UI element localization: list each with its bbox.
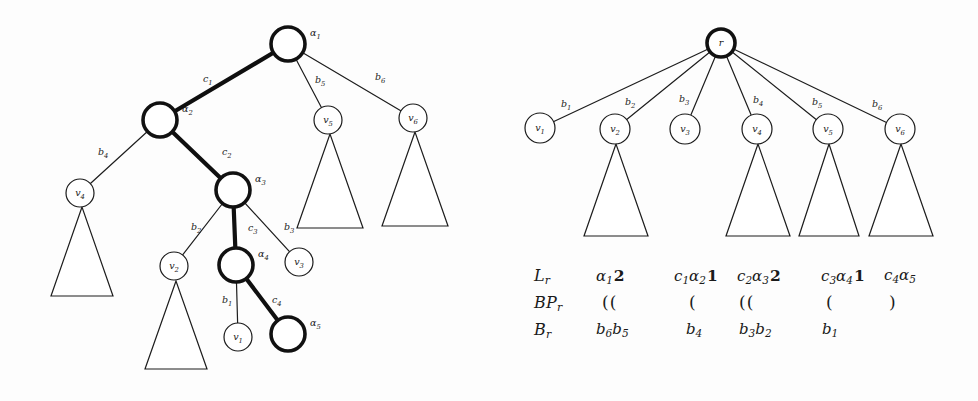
edge-line — [615, 43, 721, 129]
tree-node-a1: α1 — [271, 27, 321, 61]
left-tree: c1c2c3c4b4b2b3b1b5b6α1α2α3α4α5v4v2v1v3v5… — [51, 27, 448, 369]
subtree-triangle-v6 — [382, 132, 448, 226]
tree-edge-b6: b6 — [288, 44, 413, 118]
formula-cell: ( — [826, 292, 834, 312]
edge-label: b6 — [872, 98, 883, 112]
edge-label: c2 — [222, 146, 232, 160]
subtree-triangle-v2 — [584, 144, 648, 236]
tree-node-v3: v3 — [670, 114, 700, 144]
formula-cell: c2α32 — [737, 266, 781, 286]
node-circle — [143, 103, 177, 137]
formula-cell: ( — [689, 292, 697, 312]
tree-edge-b2: b2 — [615, 43, 721, 129]
formula-cell: c3α41 — [821, 266, 865, 286]
tree-node-a2: α2 — [143, 103, 193, 137]
subtree-triangle-v4 — [51, 207, 113, 296]
edge-label: b4 — [98, 146, 108, 160]
edge-label: b5 — [315, 74, 325, 88]
edge-line — [721, 43, 828, 129]
edge-label: c3 — [248, 222, 258, 236]
formula-cell: b3b2 — [739, 320, 772, 339]
tree-node-v2: v2 — [160, 252, 188, 280]
edge-label: b1 — [561, 98, 571, 112]
formula-row-Lr: Lrα12c1α21c2α32c3α41c4α5 — [534, 266, 964, 293]
tree-node-a5: α5 — [271, 317, 321, 351]
node-circle — [219, 248, 253, 282]
edge-label: b3 — [679, 93, 689, 107]
subtree-triangle-v4 — [726, 144, 790, 236]
node-label: α3 — [255, 173, 266, 187]
tree-edge-c1: c1 — [160, 44, 288, 120]
formula-row-BPr: BPr(((((() — [534, 293, 964, 320]
tree-node-a4: α4 — [219, 248, 269, 282]
node-circle — [271, 27, 305, 61]
edge-line — [160, 44, 288, 120]
formula-row-label: Lr — [534, 266, 550, 287]
edge-label: b5 — [812, 96, 822, 110]
node-label: α2 — [182, 103, 193, 117]
subtree-triangle-v5 — [297, 134, 363, 228]
node-label: α1 — [310, 27, 321, 41]
tree-node-v4: v4 — [742, 114, 772, 144]
edge-label: b3 — [284, 221, 294, 235]
node-label: α4 — [258, 248, 269, 262]
formula-cell: b6b5 — [596, 320, 629, 339]
edge-label: c1 — [203, 73, 213, 87]
tree-node-v6: v6 — [885, 114, 915, 144]
formula-cell: α12 — [596, 266, 625, 286]
node-label: α5 — [310, 317, 321, 331]
tree-edge-b1: b1 — [540, 43, 721, 128]
tree-node-v1: v1 — [224, 323, 252, 351]
formula-cell: ) — [889, 292, 897, 312]
edge-label: c4 — [272, 294, 282, 308]
edge-label: b4 — [753, 94, 763, 108]
tree-node-r: r — [707, 29, 735, 57]
tree-node-v1: v1 — [525, 113, 555, 143]
formula-block: Lrα12c1α21c2α32c3α41c4α5BPr(((((()Brb6b5… — [534, 266, 964, 362]
edge-label: b2 — [191, 221, 201, 235]
tree-node-v4: v4 — [66, 179, 94, 207]
tree-node-v5: v5 — [314, 106, 342, 134]
tree-node-v2: v2 — [600, 114, 630, 144]
formula-cell: (( — [602, 292, 617, 312]
formula-cell: c1α21 — [674, 266, 718, 286]
edge-line — [721, 43, 900, 129]
edge-line — [288, 44, 413, 118]
edge-line — [540, 43, 721, 128]
tree-node-v6: v6 — [399, 104, 427, 132]
tree-node-v5: v5 — [813, 114, 843, 144]
formula-cell: b4 — [686, 320, 702, 339]
node-circle — [216, 173, 250, 207]
edge-label: b1 — [222, 294, 232, 308]
formula-row-label: BPr — [534, 293, 562, 314]
formula-cell: b1 — [822, 320, 838, 339]
figure-page: c1c2c3c4b4b2b3b1b5b6α1α2α3α4α5v4v2v1v3v5… — [0, 0, 978, 401]
node-circle — [271, 317, 305, 351]
formula-cell: c4α5 — [884, 266, 916, 285]
subtree-triangle-v5 — [799, 144, 859, 236]
tree-node-a3: α3 — [216, 173, 266, 207]
subtree-triangle-v6 — [869, 144, 933, 236]
edge-label: b6 — [375, 71, 386, 85]
formula-row-Br: Brb6b5b4b3b2b1 — [534, 320, 964, 347]
formula-cell: (( — [739, 292, 754, 312]
right-tree: b1b2b3b4b5b6rv1v2v3v4v5v6 — [525, 29, 933, 236]
formula-row-label: Br — [534, 320, 551, 341]
subtree-triangle-v2 — [145, 281, 207, 369]
tree-node-v3: v3 — [285, 248, 313, 276]
tree-edge-b5: b5 — [721, 43, 828, 129]
tree-edge-b6: b6 — [721, 43, 900, 129]
edge-label: b2 — [625, 96, 635, 110]
